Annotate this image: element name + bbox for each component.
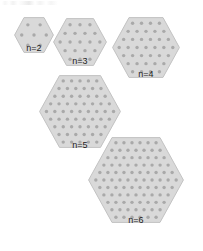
lattice-dot [98, 40, 101, 43]
lattice-dot [140, 38, 143, 41]
scan-artifact-smudge [2, 1, 62, 5]
lattice-dot [126, 46, 129, 49]
lattice-dot [142, 149, 145, 152]
lattice-dot [103, 95, 106, 98]
lattice-dot [62, 95, 65, 98]
lattice-dot [91, 117, 94, 120]
lattice-dot [49, 102, 52, 105]
lattice-dot [138, 156, 141, 159]
lattice-dot [70, 95, 73, 98]
lattice-dot [66, 102, 69, 105]
lattice-dot [162, 46, 165, 49]
lattice-dot [83, 49, 86, 52]
lattice-dot [118, 193, 121, 196]
lattice-dot [146, 141, 149, 144]
lattice-dot [70, 110, 73, 113]
hexagon-figure-n2: n=2 [14, 17, 54, 55]
lattice-dot [78, 23, 81, 26]
lattice-dot [126, 178, 129, 181]
lattice-dot [166, 163, 169, 166]
lattice-dot [78, 40, 81, 43]
lattice-dot [162, 186, 165, 189]
lattice-dot [95, 79, 98, 82]
lattice-dot [57, 133, 60, 136]
lattice-dot [170, 171, 173, 174]
lattice-dot [73, 32, 76, 35]
lattice-dot [158, 149, 161, 152]
lattice-dot [122, 141, 125, 144]
lattice-dot [131, 54, 134, 57]
lattice-dot [134, 149, 137, 152]
lattice-dot [110, 149, 113, 152]
lattice-dot [134, 163, 137, 166]
lattice-dot [149, 38, 152, 41]
lattice-dot [108, 117, 111, 120]
lattice-dot [142, 163, 145, 166]
lattice-dot [110, 208, 113, 211]
lattice-dot [82, 117, 85, 120]
lattice-dot [130, 201, 133, 204]
lattice-dot [110, 178, 113, 181]
lattice-dot [134, 208, 137, 211]
lattice-dot [57, 102, 60, 105]
lattice-dot [158, 208, 161, 211]
lattice-dot [53, 110, 56, 113]
lattice-dot [126, 30, 129, 33]
lattice-dot [62, 79, 65, 82]
lattice-dot [122, 171, 125, 174]
lattice-dot [146, 201, 149, 204]
lattice-dot [106, 201, 109, 204]
lattice-dot [91, 133, 94, 136]
lattice-dot [162, 30, 165, 33]
lattice-dot [162, 171, 165, 174]
lattice-dot [130, 156, 133, 159]
lattice-dot [131, 22, 134, 25]
lattice-dot [45, 110, 48, 113]
lattice-dot [140, 22, 143, 25]
lattice-dot [98, 171, 101, 174]
lattice-dot [138, 201, 141, 204]
lattice-dot [58, 40, 61, 43]
lattice-dot [142, 193, 145, 196]
lattice-dot [53, 95, 56, 98]
lattice-dot [98, 186, 101, 189]
lattice-dot [68, 40, 71, 43]
lattice-dot [102, 178, 105, 181]
lattice-dot [153, 30, 156, 33]
lattice-dot [138, 171, 141, 174]
hexagon-label-n6: n=6 [88, 215, 184, 226]
lattice-dot [57, 87, 60, 90]
lattice-dot [153, 62, 156, 65]
lattice-dot [114, 201, 117, 204]
hexagon-shape-n6 [88, 137, 184, 223]
lattice-dot [134, 178, 137, 181]
hexagon-figure-n6: n=6 [88, 137, 184, 227]
lattice-dot [99, 102, 102, 105]
lattice-dot [150, 149, 153, 152]
lattice-dot [63, 32, 66, 35]
lattice-dot [130, 186, 133, 189]
lattice-dot [170, 186, 173, 189]
lattice-dot [87, 79, 90, 82]
lattice-dot [114, 171, 117, 174]
lattice-dot [158, 22, 161, 25]
lattice-dot [166, 178, 169, 181]
lattice-dot [99, 87, 102, 90]
hexagon-label-n4: n=4 [112, 69, 180, 80]
hexagon-label-n3: n=3 [53, 56, 107, 67]
lattice-dot [144, 30, 147, 33]
lattice-dot [122, 38, 125, 41]
lattice-dot [20, 33, 23, 36]
lattice-dot [158, 178, 161, 181]
lattice-dot [99, 133, 102, 136]
hexagon-figure-n4: n=4 [112, 17, 180, 81]
lattice-dot [126, 163, 129, 166]
lattice-dot [45, 33, 48, 36]
lattice-dot [74, 87, 77, 90]
lattice-dot [135, 62, 138, 65]
lattice-dot [158, 193, 161, 196]
lattice-dot [74, 133, 77, 136]
lattice-dot [140, 54, 143, 57]
lattice-dot [82, 133, 85, 136]
lattice-dot [110, 193, 113, 196]
